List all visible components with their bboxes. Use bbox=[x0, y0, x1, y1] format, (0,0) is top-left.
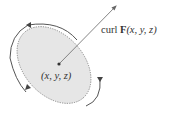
curl-prefix: curl bbox=[101, 24, 120, 35]
curl-diagram bbox=[0, 0, 169, 117]
base-point bbox=[57, 62, 60, 65]
point-label: (x, y, z) bbox=[41, 70, 71, 81]
field-args: (x, y, z) bbox=[126, 24, 156, 35]
disk bbox=[2, 12, 105, 117]
curl-vector-arrow bbox=[59, 6, 116, 64]
curl-label: curl F(x, y, z) bbox=[101, 24, 157, 35]
